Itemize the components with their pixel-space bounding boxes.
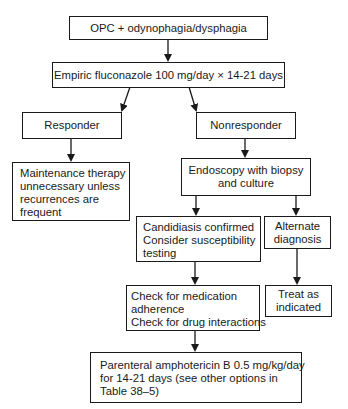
node-endoscopy: Endoscopy with biopsy and culture [181,158,311,196]
arrow-empiric-to-responder [122,87,130,110]
node-text: adherence [131,303,259,316]
node-text: Endoscopy with biopsy [189,164,304,177]
node-text: frequent [20,206,129,219]
node-alternate-diagnosis: Alternate diagnosis [264,216,331,249]
node-text: Nonresponder [210,119,282,132]
node-responder: Responder [22,112,122,139]
node-treat-as-indicated: Treat as indicated [265,285,332,317]
node-text: unnecessary unless [20,180,129,193]
node-maintenance: Maintenance therapy unnecessary unless r… [12,162,130,221]
node-text: diagnosis [274,233,322,246]
node-text: Table 38–5) [100,385,301,398]
node-parenteral-amphotericin: Parenteral amphotericin B 0.5 mg/kg/day … [90,352,302,403]
node-text: and culture [218,177,274,190]
node-text: for 14-21 days (see other options in [100,372,301,385]
node-start: OPC + odynophagia/dysphagia [69,16,268,40]
node-text: Alternate [275,220,320,233]
node-nonresponder: Nonresponder [196,112,296,139]
arrow-empiric-to-nonresponder [189,87,196,110]
node-text: Maintenance therapy [20,167,129,180]
node-text: Parenteral amphotericin B 0.5 mg/kg/day [100,359,301,372]
node-text: OPC + odynophagia/dysphagia [90,22,247,35]
node-check-adherence: Check for medication adherence Check for… [126,285,260,331]
node-text: indicated [276,301,321,314]
node-text: Check for drug interactions [131,316,259,329]
node-text: testing [143,247,260,260]
node-text: Responder [44,119,99,132]
node-empiric-fluconazole: Empiric fluconazole 100 mg/day × 14-21 d… [52,62,285,88]
node-text: Check for medication [131,290,259,303]
node-text: Treat as [278,288,319,301]
node-candidiasis: Candidiasis confirmed Consider susceptib… [136,216,261,262]
node-text: Candidiasis confirmed [143,221,260,234]
node-text: Empiric fluconazole 100 mg/day × 14-21 d… [54,69,283,82]
node-text: Consider susceptibility [143,234,260,247]
node-text: recurrences are [20,193,129,206]
